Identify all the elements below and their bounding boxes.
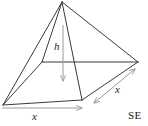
base-edge-front (3, 100, 82, 105)
base-edge-left-hidden (3, 62, 42, 105)
base-side-edge-label: x (115, 84, 120, 95)
base-front-edge-label: x (32, 111, 37, 122)
edge-apex-to-front-right (62, 2, 82, 100)
base-edge-right (82, 62, 138, 100)
pyramid-diagram-svg (0, 0, 148, 126)
pyramid-figure: h x x SE (0, 0, 148, 126)
edge-apex-to-back-right (62, 2, 138, 62)
edge-apex-to-front-left (3, 2, 62, 105)
height-label: h (54, 41, 60, 52)
corner-text: SE (128, 110, 142, 121)
